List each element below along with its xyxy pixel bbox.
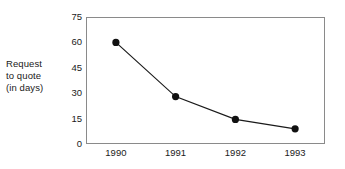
x-tick-1993: 1993	[275, 147, 315, 159]
data-point-1993	[292, 125, 299, 132]
x-tick-1992: 1992	[215, 147, 255, 159]
x-tick-1991: 1991	[156, 147, 196, 159]
chart-figure: Request to quote (in days) 75 60 45 30 1…	[0, 0, 345, 169]
x-tick-1990: 1990	[96, 147, 136, 159]
series-line	[116, 42, 295, 128]
x-axis-tick-labels: 1990 1991 1992 1993	[0, 147, 345, 163]
data-series-layer	[0, 0, 345, 169]
data-point-1991	[172, 93, 179, 100]
data-point-1992	[232, 116, 239, 123]
data-point-1990	[112, 39, 119, 46]
